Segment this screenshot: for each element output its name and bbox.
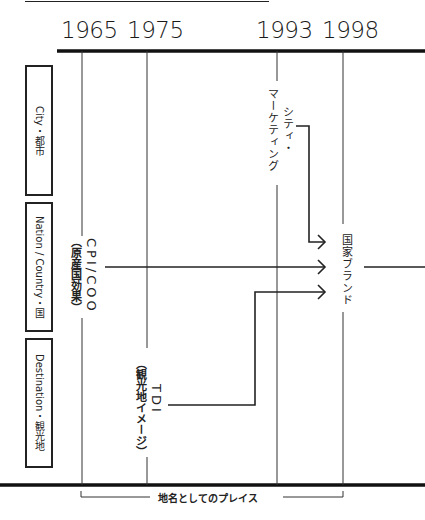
concept-tdi-sub: （観光地イメージ） (132, 358, 148, 457)
concept-nation-brand: 国家ブランド (338, 234, 354, 306)
category-nation: Nation / Country・国 (25, 202, 53, 332)
category-city: City・都市 (25, 65, 53, 196)
concept-cpi-coo: CPI/COO (84, 238, 99, 314)
concept-city-marketing-line2: マーケティング (264, 88, 280, 172)
category-destination-label: Destination・観光地 (32, 354, 47, 451)
category-nation-label: Nation / Country・国 (32, 216, 47, 318)
concept-cpi-coo-sub: （原産国効果） (67, 236, 83, 313)
diagram-lines (0, 0, 425, 520)
concept-city-marketing-line1: シティ・ (279, 106, 295, 154)
category-city-label: City・都市 (32, 106, 47, 156)
category-destination: Destination・観光地 (25, 338, 53, 468)
footer-place-label: 地名としてのプレイス (158, 490, 258, 505)
concept-tdi: TDI (149, 384, 164, 415)
